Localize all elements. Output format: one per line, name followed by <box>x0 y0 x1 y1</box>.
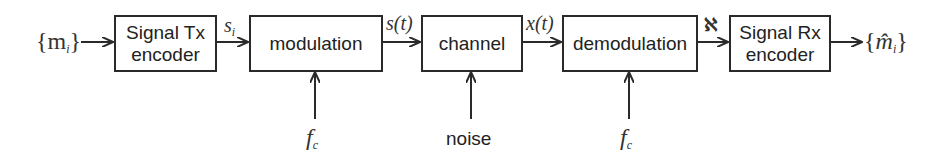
output-symbol-m-hat-i: {{m̂m̂i} <box>864 28 908 57</box>
edge-label-s-i: si <box>224 14 235 40</box>
block-signal-rx-encoder: Signal Rxencoder <box>729 15 831 72</box>
block-label: Signal Tx <box>126 22 205 44</box>
block-label: modulation <box>270 33 363 55</box>
block-label: Signal Rx <box>739 22 820 44</box>
block-signal-tx-encoder: Signal Txencoder <box>114 15 217 72</box>
edge-label-aleph: ℵ <box>704 14 717 36</box>
side-input-fc-modulation: fc <box>306 124 318 153</box>
edge-label-s-t: s(t) <box>386 12 413 35</box>
block-label: encoder <box>739 44 820 66</box>
block-label: encoder <box>126 44 205 66</box>
side-input-noise: noise <box>446 128 491 150</box>
side-input-fc-demodulation: fc <box>620 124 632 153</box>
input-symbol-m-i: {mi} <box>36 28 81 57</box>
block-diagram: {mi} Signal Txencoder modulation channel… <box>0 0 946 159</box>
block-demodulation: demodulation <box>562 15 698 72</box>
edge-label-x-t: x(t) <box>526 12 554 35</box>
block-label: demodulation <box>573 33 687 55</box>
block-channel: channel <box>421 15 523 72</box>
block-label: channel <box>439 33 506 55</box>
block-modulation: modulation <box>249 15 383 72</box>
